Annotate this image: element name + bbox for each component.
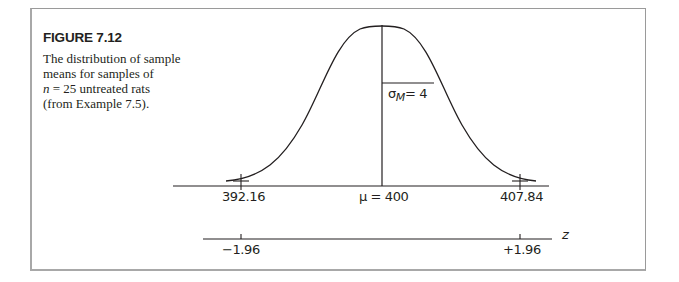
x-label-right: 407.84 bbox=[500, 189, 543, 204]
z-label-right: +1.96 bbox=[503, 242, 541, 257]
normal-distribution-diagram bbox=[0, 0, 679, 282]
z-axis-label: z bbox=[562, 227, 569, 242]
z-label-left: −1.96 bbox=[222, 242, 260, 257]
x-label-left: 392.16 bbox=[222, 189, 265, 204]
mean-label: μ = 400 bbox=[359, 189, 408, 204]
sigma-subscript: M bbox=[396, 91, 405, 104]
sigma-value: = 4 bbox=[405, 86, 427, 101]
sigma-label: σM= 4 bbox=[388, 86, 427, 104]
sigma-symbol: σ bbox=[388, 86, 396, 101]
normal-curve bbox=[226, 26, 536, 181]
